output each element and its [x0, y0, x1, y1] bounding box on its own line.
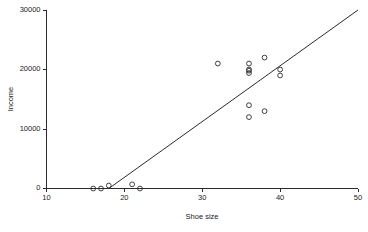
y-tick-label: 30000 [20, 5, 41, 14]
x-tick-label: 10 [42, 193, 50, 202]
x-tick-group: 1020304050 [42, 189, 362, 203]
plot-canvas: 0100002000030000 1020304050 Shoe size In… [0, 0, 368, 232]
data-point-group [91, 55, 283, 191]
y-tick-label: 10000 [20, 124, 41, 133]
regression-line-group [109, 10, 358, 189]
scatter-chart: 0100002000030000 1020304050 Shoe size In… [0, 0, 368, 232]
data-point [106, 183, 111, 188]
regression-line [109, 10, 358, 189]
data-point [278, 73, 283, 78]
data-point [262, 109, 267, 114]
y-tick-label: 0 [36, 183, 40, 192]
data-point [247, 103, 252, 108]
data-point [247, 115, 252, 120]
data-point [247, 61, 252, 66]
y-tick-label: 20000 [20, 64, 41, 73]
data-point [130, 182, 135, 187]
data-point [262, 55, 267, 60]
y-axis: 0100002000030000 [20, 5, 47, 193]
x-tick-label: 20 [120, 193, 128, 202]
x-tick-label: 50 [354, 193, 362, 202]
data-point [278, 67, 283, 72]
x-axis: 1020304050 [42, 189, 362, 203]
y-tick-group: 0100002000030000 [20, 5, 47, 193]
x-tick-label: 30 [198, 193, 206, 202]
x-tick-label: 40 [276, 193, 284, 202]
y-axis-title: Income [6, 87, 15, 112]
data-point [215, 61, 220, 66]
x-axis-title: Shoe size [186, 212, 219, 221]
